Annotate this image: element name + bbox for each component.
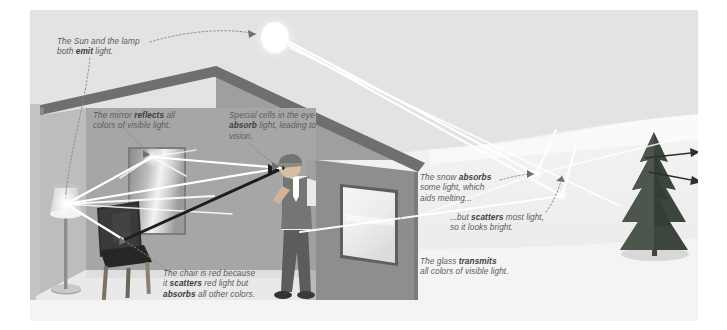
house-front-edge-left bbox=[30, 104, 40, 300]
caption-keyword: scatters bbox=[471, 212, 503, 222]
caption-text: red light but bbox=[202, 278, 248, 288]
caption-keyword: emit bbox=[76, 46, 93, 56]
sun bbox=[253, 16, 297, 60]
caption-snow-absorbs: The snow absorbs some light, which aids … bbox=[420, 172, 530, 203]
caption-text: all colors of visible light. bbox=[420, 266, 509, 276]
caption-text: some light, which aids melting... bbox=[420, 182, 485, 202]
caption-chair-scatters-absorbs: The chair is red because it scatters red… bbox=[163, 268, 313, 299]
caption-keyword: reflects bbox=[134, 110, 164, 120]
caption-text: The mirror bbox=[93, 110, 134, 120]
house-right-wall-corner bbox=[414, 172, 418, 300]
caption-mirror-reflects: The mirror reflects all colors of visibl… bbox=[93, 110, 219, 131]
caption-keyword: absorb bbox=[229, 120, 257, 130]
caption-text: all other colors. bbox=[196, 289, 255, 299]
caption-text: The snow bbox=[420, 172, 459, 182]
caption-keyword: scatters bbox=[170, 278, 202, 288]
caption-eye-absorbs: Special cells in the eye absorb light, l… bbox=[229, 110, 354, 141]
caption-text: The glass bbox=[420, 256, 459, 266]
illustration-canvas: The Sun and the lamp both emit light. Th… bbox=[0, 0, 727, 330]
caption-keyword: absorbs bbox=[163, 289, 196, 299]
caption-keyword: transmits bbox=[459, 256, 497, 266]
caption-snow-scatters: ...but scatters most light, so it looks … bbox=[450, 212, 590, 233]
caption-glass-transmits: The glass transmits all colors of visibl… bbox=[420, 256, 565, 277]
caption-text: ...but bbox=[450, 212, 471, 222]
caption-text: light. bbox=[93, 46, 113, 56]
caption-text: Special cells in the eye bbox=[229, 110, 315, 120]
caption-keyword: absorbs bbox=[459, 172, 492, 182]
caption-sun-lamp-emit: The Sun and the lamp both emit light. bbox=[57, 36, 187, 57]
